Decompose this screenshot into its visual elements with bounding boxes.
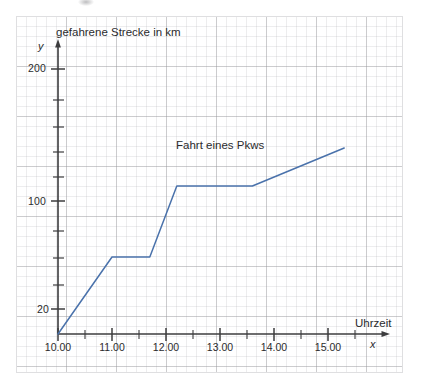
y-axis-title: gefahrene Strecke in km [56, 26, 181, 38]
y-tick-label-100: 100 [28, 195, 46, 207]
y-tick-label-200: 200 [28, 62, 46, 74]
y-axis-letter: y [38, 40, 44, 52]
x-tick-label-14: 14.00 [261, 341, 287, 353]
chart-annotation: Fahrt eines Pkws [176, 139, 264, 151]
chart-screenshot: gefahrene Strecke in km y 200 100 20 10.… [0, 0, 423, 387]
x-axis-arrowhead [382, 331, 391, 337]
x-tick-label-15: 15.00 [315, 341, 341, 353]
y-axis [51, 39, 65, 334]
x-tick-label-11: 11.00 [99, 341, 125, 353]
x-tick-label-12: 12.00 [153, 341, 179, 353]
y-axis-arrowhead [55, 39, 61, 48]
y-tick-label-20: 20 [37, 303, 49, 315]
x-tick-label-10: 10.00 [45, 341, 71, 353]
x-tick-label-13: 13.00 [207, 341, 233, 353]
x-axis [58, 328, 390, 341]
data-series-line [58, 148, 344, 334]
x-axis-title: Uhrzeit [355, 317, 391, 329]
x-axis-letter: x [370, 338, 376, 350]
